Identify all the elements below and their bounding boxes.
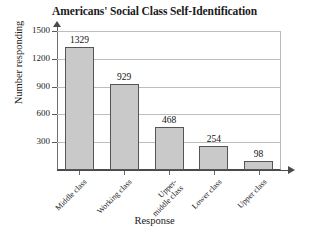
x-axis-tick-mark [169, 171, 170, 175]
y-axis-tick-mark [52, 31, 57, 32]
bar [110, 84, 139, 170]
bar-value-label: 254 [194, 134, 234, 144]
bar-value-label: 468 [149, 115, 189, 125]
bar [155, 127, 184, 170]
x-axis-category-label-line: Upper class [235, 177, 268, 210]
x-axis-tick-mark [259, 171, 260, 175]
y-axis-tick-label: 1200 [20, 53, 50, 63]
x-axis-title: Response [0, 215, 309, 226]
chart-title: Americans' Social Class Self-Identificat… [0, 5, 309, 17]
x-axis-category-label-line: Middle class [54, 177, 89, 212]
bar [244, 161, 273, 170]
gridline [57, 31, 281, 32]
y-axis-tick-label: 300 [20, 136, 50, 146]
bar [199, 146, 228, 170]
y-axis-tick-mark [52, 59, 57, 60]
y-axis-tick-label: 1500 [20, 25, 50, 35]
y-axis-tick-mark [52, 114, 57, 115]
y-axis-tick-label: 900 [20, 81, 50, 91]
x-axis-tick-mark [79, 171, 80, 175]
y-axis-tick-mark [52, 142, 57, 143]
y-axis-tick-mark [52, 87, 57, 88]
bar [65, 47, 94, 170]
y-axis-tick-label: 600 [20, 108, 50, 118]
x-axis-tick-mark [124, 171, 125, 175]
bar-value-label: 1329 [59, 35, 99, 45]
bar-chart: Americans' Social Class Self-Identificat… [0, 0, 309, 244]
x-axis-category-label-line: Lower class [190, 177, 224, 211]
y-axis-arrow-icon [53, 21, 61, 27]
x-axis-line [57, 170, 289, 171]
x-axis-arrow-icon [288, 166, 295, 174]
x-axis-category-label-line: Working class [95, 177, 133, 215]
bar-value-label: 98 [239, 149, 279, 159]
x-axis-tick-mark [214, 171, 215, 175]
bar-value-label: 929 [104, 72, 144, 82]
